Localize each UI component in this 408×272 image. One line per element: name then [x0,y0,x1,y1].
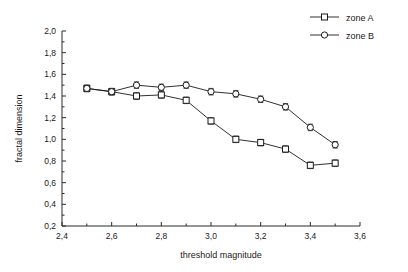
data-point-square-marker [183,97,189,103]
x-axis-tick-label: 3,2 [255,231,267,241]
x-axis-tick-label: 3,4 [304,231,316,241]
y-axis-title: fractal dimension [14,94,24,162]
data-point-circle-marker [233,91,239,97]
y-axis-tick-label: 1,4 [44,91,56,101]
x-axis-tick-label: 3,0 [205,231,217,241]
y-axis-tick-label: 2,0 [44,26,56,36]
data-point-square-marker [283,146,289,152]
data-point-circle-marker [258,96,264,102]
data-point-square-marker [332,160,338,166]
y-axis-tick-label: 0,4 [44,199,56,209]
chart-legend: zone Azone B [310,13,374,41]
series-zone-a [84,85,338,168]
x-axis-tick-label: 3,6 [354,231,366,241]
data-point-circle-marker [84,85,90,91]
data-point-square-marker [307,162,313,168]
data-point-square-marker [134,93,140,99]
data-point-circle-marker [282,104,288,110]
data-point-circle-marker [307,124,313,130]
legend-circle-marker-icon [321,32,327,38]
data-point-circle-marker [208,89,214,95]
data-point-square-marker [233,136,239,142]
y-axis-tick-label: 0,8 [44,156,56,166]
chart-figure: 2,42,62,83,03,23,43,60,20,40,60,81,01,21… [0,0,408,272]
data-point-circle-marker [183,82,189,88]
legend-item-label: zone B [346,31,374,41]
legend-item-zone-a[interactable]: zone A [310,13,374,23]
y-axis-tick-label: 1,0 [44,134,56,144]
data-point-square-marker [258,140,264,146]
x-axis-tick-label: 2,8 [155,231,167,241]
data-point-circle-marker [109,89,115,95]
series-zone-b [84,82,339,148]
data-point-square-marker [158,92,164,98]
y-axis-tick-label: 1,6 [44,69,56,79]
y-axis-tick-label: 1,8 [44,48,56,58]
data-point-circle-marker [158,84,164,90]
y-axis-tick-label: 0,6 [44,178,56,188]
series-line [87,88,335,165]
fractal-dimension-line-chart: 2,42,62,83,03,23,43,60,20,40,60,81,01,21… [0,0,408,272]
x-axis-tick-label: 2,4 [56,231,68,241]
data-point-circle-marker [133,82,139,88]
legend-item-label: zone A [346,13,374,23]
data-point-circle-marker [332,142,338,148]
legend-item-zone-b[interactable]: zone B [310,31,374,41]
x-axis-tick-label: 2,6 [106,231,118,241]
x-axis-title: threshold magnitude [180,250,262,260]
y-axis-tick-label: 0,2 [44,221,56,231]
y-axis-tick-label: 1,2 [44,113,56,123]
data-point-square-marker [208,118,214,124]
legend-square-marker-icon [322,14,328,20]
